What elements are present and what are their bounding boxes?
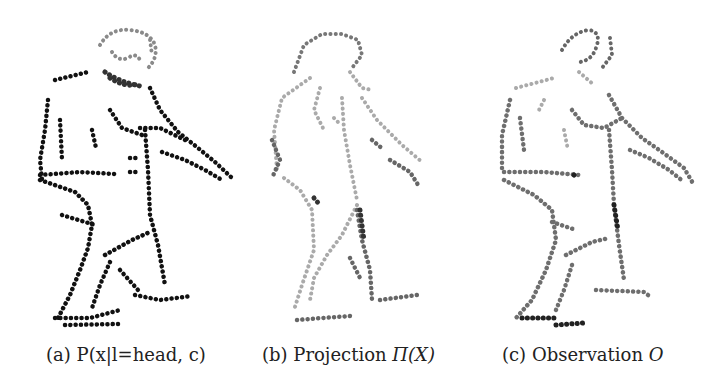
panel-projection (242, 0, 484, 340)
caption-c-label: (c) (502, 344, 526, 365)
figure-projection (242, 0, 484, 340)
caption-c-text: Observation (532, 344, 643, 365)
caption-a: (a) P(x|l=head, c) (46, 340, 206, 370)
panel-probability-head (0, 0, 242, 340)
caption-c: (c) Observation O (502, 340, 663, 370)
caption-b-math: Π(X) (392, 344, 435, 365)
panel-observation (484, 0, 726, 340)
caption-b-label: (b) (262, 344, 288, 365)
caption-a-text: P(x|l=head, c) (77, 344, 206, 365)
figure-observation (484, 0, 726, 340)
caption-a-label: (a) (46, 344, 71, 365)
figure-probability-map (0, 0, 242, 340)
caption-b: (b) Projection Π(X) (262, 340, 435, 370)
caption-b-text: Projection (293, 344, 386, 365)
caption-c-math: O (649, 344, 664, 365)
